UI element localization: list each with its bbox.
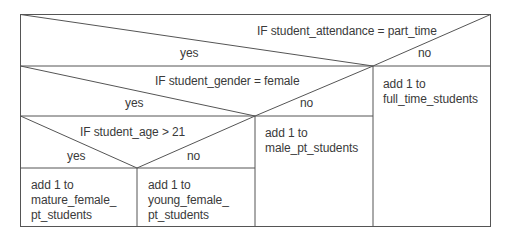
- l3-no-action: add 1 to young_female_ pt_students: [148, 178, 229, 223]
- l2-yes-label: yes: [125, 96, 143, 110]
- l1-yes-label: yes: [180, 46, 198, 60]
- l3-no-label: no: [187, 149, 200, 163]
- l1-no-diagonal: [373, 15, 491, 67]
- l3-yes-label: yes: [67, 149, 85, 163]
- l3-yes-action: add 1 to mature_female_ pt_students: [31, 178, 116, 223]
- l2-condition: IF student_gender = female: [155, 74, 300, 88]
- l1-condition: IF student_attendance = part_time: [257, 24, 437, 38]
- l1-no-label: no: [418, 46, 431, 60]
- l3-condition: IF student_age > 21: [80, 125, 185, 139]
- l1-no-action: add 1 to full_time_students: [383, 77, 478, 107]
- l2-no-action: add 1 to male_pt_students: [265, 126, 358, 156]
- l2-no-label: no: [300, 96, 313, 110]
